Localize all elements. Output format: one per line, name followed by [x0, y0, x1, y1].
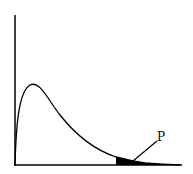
density-curve: [15, 84, 180, 165]
shaded-tail-region: [116, 157, 180, 165]
density-chart: P: [0, 0, 193, 174]
p-pointer-line: [133, 141, 157, 161]
p-label: P: [157, 130, 165, 144]
